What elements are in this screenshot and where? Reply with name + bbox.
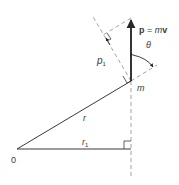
r-extension-dashed xyxy=(131,65,157,81)
momentum-label: p = mv xyxy=(139,25,167,35)
origin-label: 0 xyxy=(11,155,16,165)
angular-momentum-diagram: 0 r r1 p1 m θ p = mv xyxy=(0,0,179,185)
right-angle-mark-p1 xyxy=(107,33,111,41)
r1-label: r1 xyxy=(82,137,89,148)
diagram-canvas: 0 r r1 p1 m θ p = mv xyxy=(0,0,179,185)
mass-label: m xyxy=(137,83,145,93)
theta-angle-arc xyxy=(133,55,153,67)
p1-component-arrow xyxy=(106,38,110,45)
momentum-label-v: v xyxy=(162,25,167,35)
right-angle-mark-r1 xyxy=(124,141,131,149)
p1-projection-dashed xyxy=(103,18,131,35)
theta-label: θ xyxy=(146,40,151,50)
momentum-label-eq: = xyxy=(145,25,155,35)
p1-label: p1 xyxy=(96,55,107,67)
r1-label-sub: 1 xyxy=(85,142,89,148)
r-vector-line xyxy=(17,81,131,149)
perpendicular-to-r-dashed xyxy=(92,15,131,81)
r-label: r xyxy=(83,113,87,123)
p1-label-sub: 1 xyxy=(103,61,107,67)
